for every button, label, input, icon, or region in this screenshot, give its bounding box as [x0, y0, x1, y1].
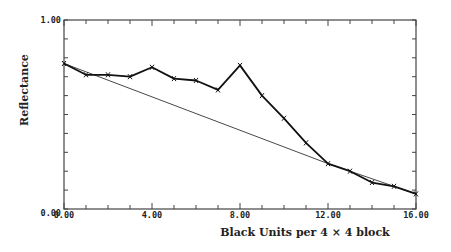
- x-tick-label: 16.00: [403, 210, 429, 220]
- x-marker-icon: [282, 116, 286, 121]
- reference-line: [64, 63, 416, 193]
- reflectance-chart: 0.004.008.0012.0016.00 0.001.00 Black Un…: [0, 0, 451, 252]
- x-marker-icon: [304, 140, 308, 145]
- x-marker-icon: [260, 93, 264, 98]
- x-axis-title: Black Units per 4 × 4 block: [220, 226, 390, 239]
- y-tick-label: 1.00: [41, 15, 61, 25]
- x-tick-label: 8.00: [230, 210, 250, 220]
- plot-frame: [64, 20, 416, 209]
- y-tick-labels: 0.001.00: [41, 15, 61, 218]
- plot-border: [64, 20, 416, 209]
- x-tick-label: 12.00: [315, 210, 341, 220]
- reference-polyline: [64, 63, 416, 193]
- x-tick-label: 4.00: [142, 210, 162, 220]
- x-tick-labels: 0.004.008.0012.0016.00: [54, 210, 429, 220]
- y-tick-label: 0.00: [41, 208, 61, 218]
- y-ticks: [64, 20, 416, 209]
- x-ticks: [64, 20, 416, 209]
- y-axis-title: Reflectance: [18, 54, 31, 126]
- x-marker-icon: [238, 63, 242, 68]
